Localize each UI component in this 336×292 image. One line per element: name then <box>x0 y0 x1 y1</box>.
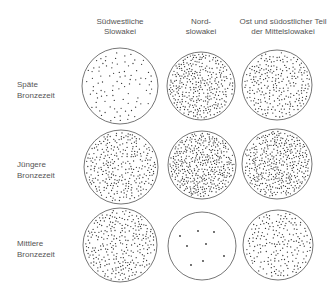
density-circle-r0-c2 <box>242 50 312 120</box>
density-circles-grid <box>0 0 336 292</box>
circle-outline <box>167 52 235 120</box>
circle-outline <box>83 208 157 282</box>
circle-outline <box>243 210 313 280</box>
circle-outline <box>168 131 236 199</box>
density-circle-r2-c1 <box>168 212 236 280</box>
density-circle-r2-c0 <box>83 208 157 282</box>
density-circle-r1-c2 <box>242 129 312 199</box>
density-circle-r0-c1 <box>167 52 235 120</box>
circle-outline <box>168 212 236 280</box>
density-circle-r1-c1 <box>168 131 236 199</box>
density-circle-r1-c0 <box>84 130 158 204</box>
circle-outline <box>82 48 158 124</box>
density-circle-r2-c2 <box>243 210 313 280</box>
density-circle-r0-c0 <box>82 48 158 124</box>
